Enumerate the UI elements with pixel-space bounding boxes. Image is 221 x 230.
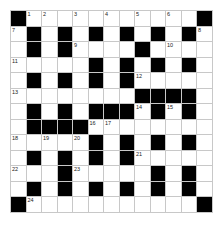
answer-cell[interactable] [197, 182, 213, 198]
answer-cell[interactable] [166, 135, 182, 151]
answer-cell[interactable] [166, 120, 182, 136]
answer-cell[interactable] [182, 120, 198, 136]
answer-cell[interactable] [89, 166, 105, 182]
answer-cell[interactable] [73, 197, 89, 213]
answer-cell[interactable] [166, 73, 182, 89]
answer-cell[interactable] [151, 11, 167, 27]
answer-cell[interactable] [166, 151, 182, 167]
answer-cell[interactable] [166, 27, 182, 43]
answer-cell[interactable] [104, 151, 120, 167]
answer-cell[interactable]: 13 [11, 89, 27, 105]
answer-cell[interactable] [135, 166, 151, 182]
answer-cell[interactable] [104, 42, 120, 58]
answer-cell[interactable] [166, 58, 182, 74]
answer-cell[interactable] [151, 197, 167, 213]
answer-cell[interactable]: 11 [11, 58, 27, 74]
answer-cell[interactable] [197, 58, 213, 74]
answer-cell[interactable] [73, 58, 89, 74]
answer-cell[interactable] [197, 89, 213, 105]
answer-cell[interactable] [89, 42, 105, 58]
answer-cell[interactable] [73, 182, 89, 198]
answer-cell[interactable] [104, 27, 120, 43]
answer-cell[interactable] [197, 135, 213, 151]
answer-cell[interactable]: 18 [11, 135, 27, 151]
answer-cell[interactable]: 3 [73, 11, 89, 27]
answer-cell[interactable]: 2 [42, 11, 58, 27]
answer-cell[interactable] [166, 182, 182, 198]
answer-cell[interactable] [182, 42, 198, 58]
answer-cell[interactable] [104, 135, 120, 151]
answer-cell[interactable] [27, 135, 43, 151]
answer-cell[interactable] [73, 89, 89, 105]
answer-cell[interactable]: 1 [27, 11, 43, 27]
answer-cell[interactable] [104, 89, 120, 105]
answer-cell[interactable] [42, 58, 58, 74]
answer-cell[interactable] [120, 197, 136, 213]
answer-cell[interactable] [104, 182, 120, 198]
answer-cell[interactable] [135, 197, 151, 213]
answer-cell[interactable] [104, 166, 120, 182]
answer-cell[interactable] [135, 27, 151, 43]
answer-cell[interactable] [73, 104, 89, 120]
answer-cell[interactable] [182, 151, 198, 167]
answer-cell[interactable] [11, 151, 27, 167]
answer-cell[interactable] [197, 42, 213, 58]
answer-cell[interactable] [135, 182, 151, 198]
answer-cell[interactable] [166, 166, 182, 182]
answer-cell[interactable] [58, 58, 74, 74]
answer-cell[interactable] [135, 58, 151, 74]
answer-cell[interactable] [11, 73, 27, 89]
answer-cell[interactable] [11, 120, 27, 136]
answer-cell[interactable] [27, 89, 43, 105]
answer-cell[interactable] [58, 11, 74, 27]
answer-cell[interactable] [11, 104, 27, 120]
answer-cell[interactable]: 12 [135, 73, 151, 89]
answer-cell[interactable] [182, 11, 198, 27]
answer-cell[interactable] [120, 11, 136, 27]
answer-cell[interactable]: 23 [73, 166, 89, 182]
answer-cell[interactable] [197, 120, 213, 136]
answer-cell[interactable] [42, 42, 58, 58]
answer-cell[interactable] [166, 197, 182, 213]
answer-cell[interactable] [42, 73, 58, 89]
answer-cell[interactable] [120, 42, 136, 58]
answer-cell[interactable]: 7 [11, 27, 27, 43]
answer-cell[interactable]: 14 [135, 104, 151, 120]
answer-cell[interactable] [151, 73, 167, 89]
answer-cell[interactable] [197, 73, 213, 89]
answer-cell[interactable]: 15 [166, 104, 182, 120]
answer-cell[interactable]: 19 [42, 135, 58, 151]
answer-cell[interactable] [42, 104, 58, 120]
answer-cell[interactable]: 22 [11, 166, 27, 182]
answer-cell[interactable] [27, 58, 43, 74]
answer-cell[interactable]: 10 [166, 42, 182, 58]
answer-cell[interactable] [73, 27, 89, 43]
answer-cell[interactable] [104, 73, 120, 89]
answer-cell[interactable] [42, 166, 58, 182]
answer-cell[interactable] [89, 11, 105, 27]
answer-cell[interactable] [27, 166, 43, 182]
answer-cell[interactable]: 5 [135, 11, 151, 27]
answer-cell[interactable] [120, 89, 136, 105]
answer-cell[interactable] [42, 197, 58, 213]
answer-cell[interactable] [197, 166, 213, 182]
answer-cell[interactable]: 20 [73, 135, 89, 151]
answer-cell[interactable] [11, 42, 27, 58]
answer-cell[interactable] [42, 182, 58, 198]
answer-cell[interactable]: 9 [73, 42, 89, 58]
answer-cell[interactable] [151, 151, 167, 167]
answer-cell[interactable] [73, 73, 89, 89]
answer-cell[interactable] [197, 151, 213, 167]
answer-cell[interactable]: 6 [166, 11, 182, 27]
answer-cell[interactable]: 16 [89, 120, 105, 136]
answer-cell[interactable]: 21 [135, 151, 151, 167]
answer-cell[interactable] [120, 166, 136, 182]
answer-cell[interactable]: 17 [104, 120, 120, 136]
answer-cell[interactable]: 4 [104, 11, 120, 27]
answer-cell[interactable] [89, 89, 105, 105]
answer-cell[interactable] [104, 197, 120, 213]
answer-cell[interactable] [197, 104, 213, 120]
answer-cell[interactable] [135, 120, 151, 136]
answer-cell[interactable] [104, 58, 120, 74]
answer-cell[interactable] [120, 120, 136, 136]
